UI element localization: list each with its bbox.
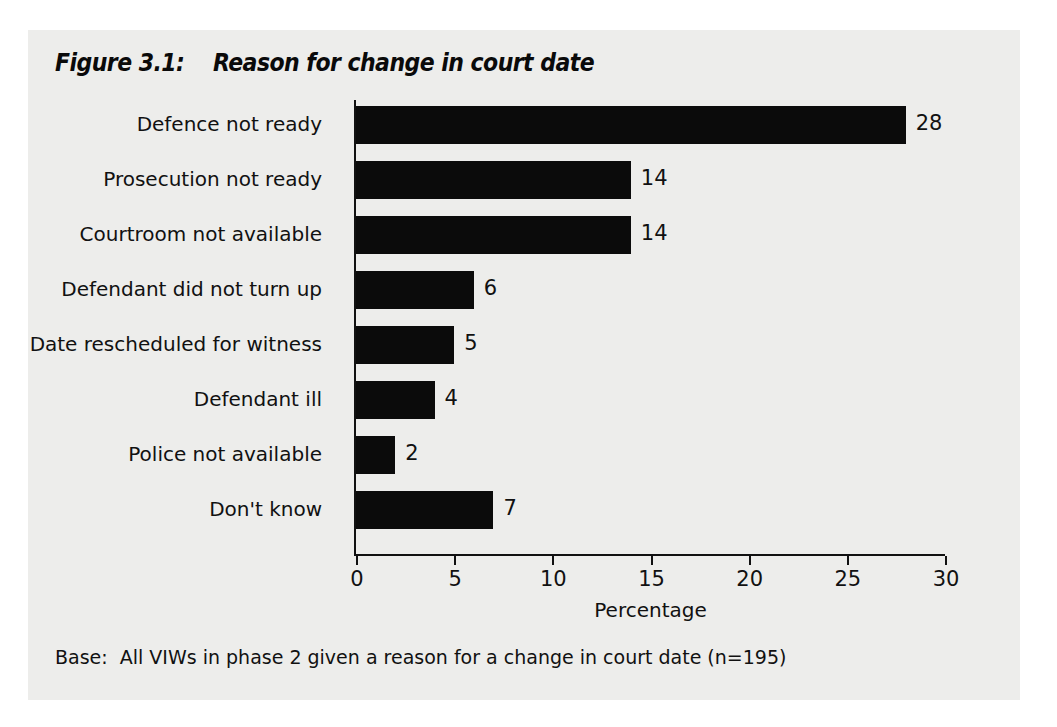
x-axis-tick <box>847 556 849 565</box>
category-label: Prosecution not ready <box>103 167 322 191</box>
category-label: Date rescheduled for witness <box>30 332 322 356</box>
figure-panel: Figure 3.1: Reason for change in court d… <box>28 30 1020 700</box>
bar <box>356 106 906 144</box>
x-axis-tick-label: 20 <box>736 567 763 591</box>
x-axis-tick <box>945 556 947 565</box>
category-label: Defendant ill <box>194 387 322 411</box>
bar-chart-plot-area: 051015202530 Percentage Defence not read… <box>28 30 1020 700</box>
bar-value-label: 4 <box>445 386 458 410</box>
bar-value-label: 14 <box>641 166 668 190</box>
base-note: Base: All VIWs in phase 2 given a reason… <box>55 646 786 668</box>
bar-value-label: 14 <box>641 221 668 245</box>
bar <box>356 271 474 309</box>
x-axis-tick <box>651 556 653 565</box>
bar <box>356 216 631 254</box>
bar <box>356 326 454 364</box>
x-axis-title: Percentage <box>356 598 945 622</box>
x-axis-tick-label: 30 <box>933 567 960 591</box>
bar-value-label: 7 <box>503 496 516 520</box>
x-axis-tick-label: 5 <box>448 567 461 591</box>
category-label: Police not available <box>128 442 322 466</box>
category-label: Don't know <box>209 497 322 521</box>
x-axis-tick <box>552 556 554 565</box>
category-label: Courtroom not available <box>80 222 322 246</box>
x-axis-tick <box>356 556 358 565</box>
bar-value-label: 2 <box>405 441 418 465</box>
bar-value-label: 6 <box>484 276 497 300</box>
x-axis-tick-label: 0 <box>350 567 363 591</box>
category-label: Defence not ready <box>137 112 322 136</box>
bar <box>356 436 395 474</box>
bar <box>356 491 493 529</box>
x-axis-tick-label: 25 <box>834 567 861 591</box>
x-axis-tick-label: 10 <box>540 567 567 591</box>
bar <box>356 161 631 199</box>
category-label: Defendant did not turn up <box>61 277 322 301</box>
bar <box>356 381 435 419</box>
x-axis-tick <box>454 556 456 565</box>
bar-value-label: 28 <box>916 111 943 135</box>
x-axis-tick <box>749 556 751 565</box>
x-axis-tick-label: 15 <box>638 567 665 591</box>
bar-value-label: 5 <box>464 331 477 355</box>
